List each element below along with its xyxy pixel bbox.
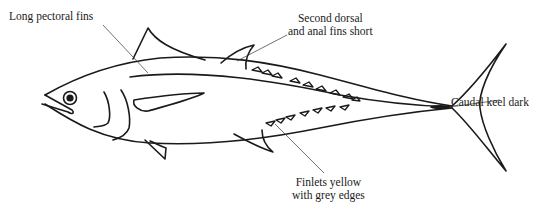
- caudal-keel: [430, 105, 450, 109]
- pectoral-fin: [134, 93, 204, 111]
- label-text-line1: Finlets yellow: [292, 176, 365, 189]
- operculum: [113, 90, 130, 140]
- label-text: Caudal keel dark: [451, 96, 529, 108]
- gill-cover: [94, 92, 110, 127]
- label-long-pectoral-fins: Long pectoral fins: [9, 10, 93, 23]
- ventral-finlets: [266, 105, 349, 126]
- leader-pectoral: [103, 25, 148, 73]
- second-dorsal-fin: [221, 45, 254, 69]
- eye-pupil: [66, 94, 73, 101]
- label-finlets: Finlets yellow with grey edges: [292, 176, 365, 202]
- first-dorsal-fin: [133, 28, 205, 60]
- label-text-line2: and anal fins short: [288, 25, 373, 38]
- label-second-dorsal-anal-fins: Second dorsal and anal fins short: [288, 12, 373, 38]
- label-text: Long pectoral fins: [9, 10, 93, 22]
- label-caudal-keel: Caudal keel dark: [451, 96, 529, 109]
- label-text-line1: Second dorsal: [288, 12, 373, 25]
- body-outline-upper: [45, 57, 452, 106]
- label-text-line2: with grey edges: [292, 189, 365, 202]
